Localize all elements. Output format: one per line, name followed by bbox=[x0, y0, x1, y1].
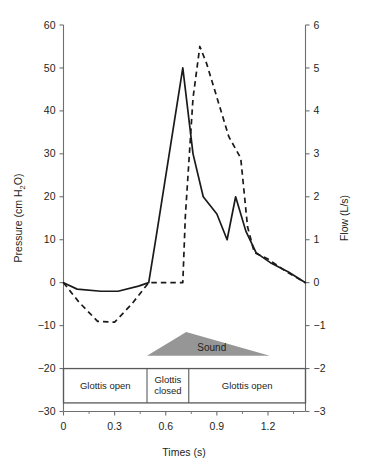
right-tick-label-4: 2 bbox=[314, 190, 320, 202]
left-tick-label-6: 0 bbox=[50, 276, 56, 288]
left-tick-label-8: −20 bbox=[38, 362, 56, 374]
right-tick-label-7: −1 bbox=[314, 319, 326, 331]
glottis-phase-bar: Glottis openGlottisclosedGlottis open bbox=[64, 369, 306, 403]
x-axis-tick-labels: 00.30.60.91.2 bbox=[61, 420, 276, 432]
pressure-series-line bbox=[64, 68, 306, 291]
left-axis-ticks bbox=[60, 25, 64, 412]
right-tick-label-5: 1 bbox=[314, 233, 320, 245]
left-axis-group: 6050403020100−10−20−30 Pressure (cm H2O) bbox=[12, 19, 64, 418]
left-tick-label-0: 60 bbox=[44, 19, 56, 31]
figure-container: 6050403020100−10−20−30 Pressure (cm H2O)… bbox=[0, 0, 366, 469]
right-axis-title: Flow (L/s) bbox=[338, 195, 350, 241]
x-axis-group: 00.30.60.91.2 Times (s) bbox=[61, 412, 306, 459]
right-tick-label-1: 5 bbox=[314, 62, 320, 74]
x-tick-label-3: 0.9 bbox=[210, 420, 225, 432]
right-tick-label-6: 0 bbox=[314, 276, 320, 288]
left-tick-label-5: 10 bbox=[44, 233, 56, 245]
x-tick-label-0: 0 bbox=[61, 420, 67, 432]
right-axis-ticks bbox=[306, 25, 310, 412]
left-tick-label-1: 50 bbox=[44, 62, 56, 74]
x-tick-label-4: 1.2 bbox=[261, 420, 276, 432]
left-tick-label-2: 40 bbox=[44, 104, 56, 116]
left-tick-label-7: −10 bbox=[38, 319, 56, 331]
left-tick-label-9: −30 bbox=[38, 405, 56, 417]
x-tick-label-2: 0.6 bbox=[158, 420, 173, 432]
right-axis-tick-labels: 6543210−1−2−3 bbox=[314, 19, 326, 418]
left-tick-label-3: 30 bbox=[44, 147, 56, 159]
right-tick-label-2: 4 bbox=[314, 104, 320, 116]
left-axis-title: Pressure (cm H2O) bbox=[12, 174, 27, 263]
x-axis-title: Times (s) bbox=[162, 446, 205, 458]
phase-bar-label-1: Glottisclosed bbox=[154, 374, 181, 396]
right-tick-label-9: −3 bbox=[314, 405, 326, 417]
sound-annotation: Sound bbox=[147, 332, 270, 356]
sound-label: Sound bbox=[197, 342, 226, 353]
left-axis-tick-labels: 6050403020100−10−20−30 bbox=[38, 19, 56, 418]
right-tick-label-0: 6 bbox=[314, 19, 320, 31]
x-axis-ticks bbox=[64, 412, 269, 416]
right-tick-label-8: −2 bbox=[314, 362, 326, 374]
right-axis-group: 6543210−1−2−3 Flow (L/s) bbox=[306, 19, 351, 418]
left-tick-label-4: 20 bbox=[44, 190, 56, 202]
right-tick-label-3: 3 bbox=[314, 147, 320, 159]
dual-axis-line-chart: 6050403020100−10−20−30 Pressure (cm H2O)… bbox=[0, 0, 366, 469]
x-tick-label-1: 0.3 bbox=[107, 420, 122, 432]
phase-bar-label-0: Glottis open bbox=[80, 380, 131, 391]
phase-bar-label-2: Glottis open bbox=[222, 380, 273, 391]
